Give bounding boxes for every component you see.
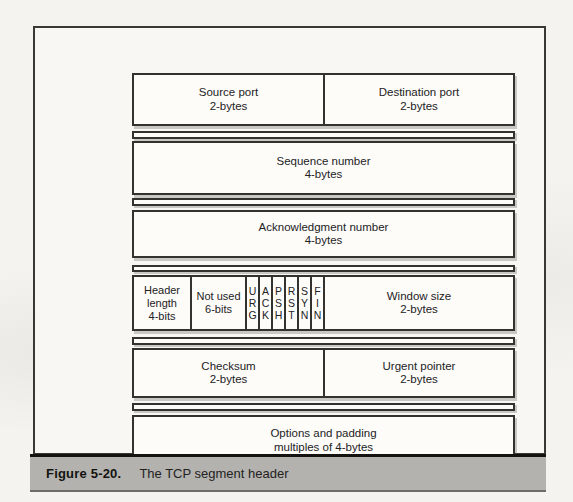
- field-title: Urgent pointer: [383, 360, 456, 374]
- field-title: Not used: [196, 290, 240, 303]
- field-checksum: Checksum 2-bytes: [134, 350, 325, 396]
- row-sequence-number: Sequence number 4-bytes: [132, 141, 515, 195]
- field-title: Destination port: [379, 86, 460, 100]
- figure-number-label: Figure 5-20.: [46, 466, 121, 481]
- field-source-port: Source port 2-bytes: [134, 75, 325, 124]
- field-title: Options and padding: [270, 427, 376, 441]
- field-size: 6-bits: [205, 303, 232, 316]
- figure-frame: Source port 2-bytes Destination port 2-b…: [33, 26, 546, 455]
- row-separator-strip: [132, 403, 515, 411]
- flag-urg: U R G: [247, 277, 260, 329]
- field-size: 2-bytes: [210, 373, 248, 387]
- field-size: 2-bytes: [400, 100, 438, 114]
- flag-letter: N: [314, 309, 322, 321]
- field-size: 4-bytes: [305, 168, 343, 182]
- flag-letter: C: [262, 297, 270, 309]
- flag-letter: I: [316, 297, 319, 309]
- field-title: Sequence number: [277, 155, 371, 169]
- flag-letter: S: [288, 297, 295, 309]
- row-separator-strip: [132, 131, 515, 139]
- flag-ack: A C K: [260, 277, 273, 329]
- field-header-length: Header length 4-bits: [134, 277, 192, 329]
- flag-letter: R: [288, 285, 296, 297]
- field-size: 4-bits: [149, 310, 176, 323]
- row-separator-strip: [132, 265, 515, 272]
- flag-psh: P S H: [273, 277, 286, 329]
- field-size: 4-bytes: [305, 234, 343, 248]
- field-size: 2-bytes: [210, 100, 248, 114]
- field-title: Source port: [199, 86, 258, 100]
- flag-letter: T: [288, 309, 294, 321]
- flag-letter: P: [275, 285, 282, 297]
- field-window-size: Window size 2-bytes: [325, 277, 513, 329]
- flag-fin: F I N: [312, 277, 325, 329]
- flag-letter: G: [248, 309, 256, 321]
- flag-rst: R S T: [286, 277, 299, 329]
- field-not-used: Not used 6-bits: [192, 277, 247, 329]
- row-acknowledgment-number: Acknowledgment number 4-bytes: [132, 210, 515, 258]
- figure-caption-bar: Figure 5-20. The TCP segment header: [30, 454, 546, 492]
- figure-caption-title: The TCP segment header: [139, 466, 288, 481]
- flag-letter: N: [301, 309, 309, 321]
- field-title: Acknowledgment number: [259, 221, 389, 235]
- flag-letter: R: [249, 297, 257, 309]
- field-title-line1: Header: [144, 284, 180, 297]
- field-title: Checksum: [201, 360, 255, 374]
- flag-letter: S: [301, 285, 308, 297]
- row-checksum: Checksum 2-bytes Urgent pointer 2-bytes: [132, 348, 515, 398]
- field-size: 2-bytes: [400, 303, 438, 317]
- row-separator-strip: [132, 337, 515, 345]
- field-title-line2: length: [147, 297, 177, 310]
- flag-letter: Y: [301, 297, 308, 309]
- flag-syn: S Y N: [299, 277, 312, 329]
- flag-letter: K: [262, 309, 269, 321]
- flag-letter: F: [314, 285, 320, 297]
- field-destination-port: Destination port 2-bytes: [325, 75, 513, 124]
- flag-letter: A: [262, 285, 269, 297]
- field-size: multiples of 4-bytes: [274, 441, 373, 455]
- flag-letter: H: [275, 309, 283, 321]
- row-ports: Source port 2-bytes Destination port 2-b…: [132, 73, 515, 126]
- field-acknowledgment-number: Acknowledgment number 4-bytes: [134, 212, 513, 256]
- field-title: Window size: [387, 290, 452, 304]
- field-size: 2-bytes: [400, 373, 438, 387]
- field-sequence-number: Sequence number 4-bytes: [134, 143, 513, 193]
- row-flags: Header length 4-bits Not used 6-bits U R…: [132, 275, 515, 331]
- field-urgent-pointer: Urgent pointer 2-bytes: [325, 350, 513, 396]
- flag-letter: S: [275, 297, 282, 309]
- row-separator-strip: [132, 198, 515, 206]
- flag-letter: U: [249, 285, 257, 297]
